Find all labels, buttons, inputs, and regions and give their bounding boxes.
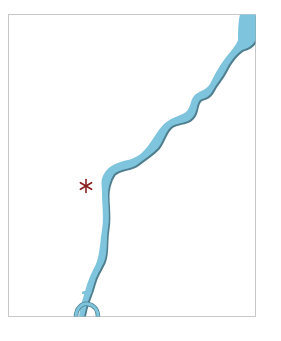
map-canvas bbox=[0, 0, 281, 341]
